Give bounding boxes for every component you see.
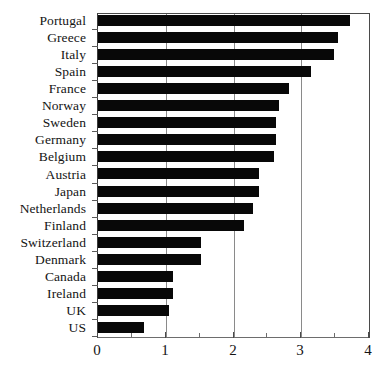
bar — [98, 134, 276, 145]
plot-area — [97, 13, 370, 338]
bar — [98, 15, 350, 26]
category-tick — [92, 302, 98, 303]
x-tick-major — [368, 332, 369, 338]
x-tick-label: 0 — [82, 342, 112, 359]
bar-row — [98, 202, 369, 219]
bar-row — [98, 304, 369, 321]
bar — [98, 220, 244, 231]
category-label-austria: Austria — [0, 168, 86, 181]
bar — [98, 168, 259, 179]
category-tick — [92, 319, 98, 320]
x-tick-major — [165, 332, 166, 338]
bar — [98, 66, 311, 77]
category-label-spain: Spain — [0, 65, 86, 78]
bar — [98, 203, 253, 214]
value-axis: 01234 — [97, 337, 369, 376]
bar-row — [98, 99, 369, 116]
category-label-italy: Italy — [0, 48, 86, 61]
category-tick — [92, 46, 98, 47]
bar-row — [98, 236, 369, 253]
category-label-sweden: Sweden — [0, 116, 86, 129]
bar — [98, 49, 334, 60]
category-label-uk: UK — [0, 304, 86, 317]
bar-row — [98, 253, 369, 270]
bar-row — [98, 14, 369, 31]
bar-row — [98, 48, 369, 65]
bar-row — [98, 270, 369, 287]
category-label-finland: Finland — [0, 219, 86, 232]
x-tick-label: 1 — [150, 342, 180, 359]
bar — [98, 322, 144, 333]
category-tick — [92, 63, 98, 64]
category-tick — [92, 131, 98, 132]
x-tick-minor — [266, 333, 267, 338]
category-tick — [92, 114, 98, 115]
x-tick-minor — [131, 333, 132, 338]
bar — [98, 83, 289, 94]
x-tick-minor — [334, 333, 335, 338]
x-tick-major — [233, 332, 234, 338]
x-tick-label: 2 — [218, 342, 248, 359]
category-tick — [92, 148, 98, 149]
bar-row — [98, 82, 369, 99]
category-label-japan: Japan — [0, 185, 86, 198]
bar-row — [98, 133, 369, 150]
bar — [98, 305, 169, 316]
bar-row — [98, 185, 369, 202]
category-label-france: France — [0, 82, 86, 95]
category-label-us: US — [0, 321, 86, 334]
plot-inner — [98, 14, 369, 338]
bar — [98, 254, 201, 265]
category-tick — [92, 29, 98, 30]
category-label-netherlands: Netherlands — [0, 202, 86, 215]
bar — [98, 237, 201, 248]
x-tick-major — [300, 332, 301, 338]
category-label-portugal: Portugal — [0, 14, 86, 27]
category-label-greece: Greece — [0, 31, 86, 44]
bar-row — [98, 31, 369, 48]
x-tick-label: 3 — [285, 342, 315, 359]
bar — [98, 32, 338, 43]
category-tick — [92, 165, 98, 166]
bar-row — [98, 219, 369, 236]
bar-row — [98, 65, 369, 82]
bar — [98, 151, 274, 162]
category-label-germany: Germany — [0, 133, 86, 146]
bar — [98, 117, 276, 128]
bar — [98, 271, 173, 282]
bar — [98, 288, 173, 299]
category-label-ireland: Ireland — [0, 287, 86, 300]
category-label-norway: Norway — [0, 99, 86, 112]
category-label-denmark: Denmark — [0, 253, 86, 266]
bar — [98, 186, 259, 197]
category-tick — [92, 97, 98, 98]
x-tick-label: 4 — [353, 342, 383, 359]
bar-row — [98, 150, 369, 167]
bar-row — [98, 167, 369, 184]
bar — [98, 100, 279, 111]
bar-row — [98, 116, 369, 133]
bar-row — [98, 287, 369, 304]
category-label-canada: Canada — [0, 270, 86, 283]
bar-chart: PortugalGreeceItalySpainFranceNorwaySwed… — [0, 0, 389, 376]
category-label-belgium: Belgium — [0, 150, 86, 163]
category-axis: PortugalGreeceItalySpainFranceNorwaySwed… — [0, 13, 90, 337]
x-tick-minor — [199, 333, 200, 338]
category-label-switzerland: Switzerland — [0, 236, 86, 249]
category-tick — [92, 80, 98, 81]
x-tick-major — [97, 332, 98, 338]
